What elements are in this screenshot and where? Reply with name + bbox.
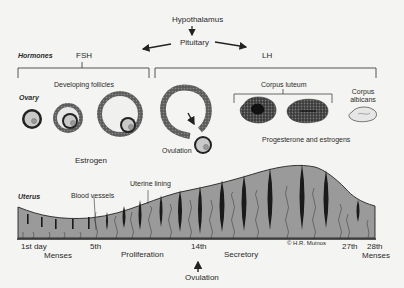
fsh-bracket [18, 62, 149, 78]
ovary-ovulation-label: Ovulation [162, 147, 192, 155]
corpus-albicans-label: Corpus albicans [350, 88, 376, 104]
follicle-primary [22, 109, 42, 129]
follicle-secondary [53, 103, 83, 133]
estrogen-label: Estrogen [75, 156, 107, 165]
day1-label: 1st day [21, 242, 47, 251]
progesterone-estrogens-label: Progesterone and estrogens [262, 136, 350, 144]
credit-label: © H.R. Muinos [287, 239, 326, 247]
ruptured-follicle [163, 88, 212, 154]
fsh-label: FSH [76, 51, 92, 60]
uterine-lining [17, 164, 376, 239]
corpus-albicans-line2: albicans [350, 96, 376, 104]
day27-label: 27th [342, 242, 358, 251]
secretory-label: Secretory [224, 250, 258, 259]
developing-follicles-label: Developing follicles [54, 81, 114, 89]
corpus-luteum-label: Corpus luteum [261, 81, 307, 89]
lh-bracket [155, 68, 376, 78]
menses-end-label: Menses [362, 251, 390, 260]
day5-label: 5th [90, 242, 101, 251]
menstrual-cycle-diagram: Hypothalamus Pituitary Hormones FSH LH O… [0, 0, 404, 288]
corpus-albicans-line1: Corpus [350, 88, 376, 96]
ovulation-timeline-label: Ovulation [185, 273, 219, 282]
ovary-row-label: Ovary [19, 94, 39, 102]
corpus-luteum-early [240, 97, 276, 123]
uterine-lining-label: Uterine lining [130, 180, 171, 188]
day14-label: 14th [191, 242, 207, 251]
hypothalamus-label: Hypothalamus [172, 15, 223, 24]
follicle-tertiary [97, 91, 143, 137]
menses-start-label: Menses [44, 251, 72, 260]
hormones-row-label: Hormones [18, 52, 53, 60]
uterus-row-label: Uterus [18, 193, 40, 201]
lh-label: LH [262, 51, 272, 60]
proliferation-label: Proliferation [121, 250, 164, 259]
corpus-albicans [349, 107, 377, 122]
corpus-luteum-late [287, 99, 328, 123]
blood-vessels-label: Blood vessels [71, 192, 114, 200]
pituitary-label: Pituitary [180, 38, 209, 47]
day28-label: 28th [367, 242, 383, 251]
